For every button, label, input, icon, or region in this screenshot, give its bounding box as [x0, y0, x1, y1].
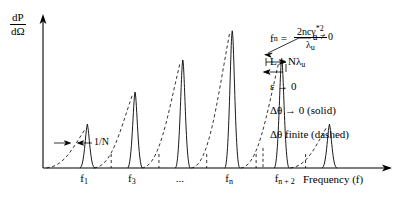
y-axis-label-numerator: dP	[10, 12, 26, 25]
y-axis-label: dP dΩ	[10, 12, 26, 37]
width-callout-1-over-n	[54, 141, 92, 145]
equation-fn-numerator: 2ncγ*2	[294, 24, 327, 38]
x-tick-label: f3	[128, 173, 136, 186]
x-axis-title: Frequency (f)	[303, 174, 363, 185]
harmonic-peak	[80, 124, 95, 168]
equation-fn-denominator: λu	[306, 38, 315, 52]
y-axis	[40, 14, 47, 168]
equation-fn: fn = 2ncγ*2 λu	[270, 26, 405, 50]
equation-epsilon: ε → 0	[270, 74, 405, 98]
x-tick-label: fn + 2	[275, 173, 295, 186]
equation-fn-fraction: 2ncγ*2 λu	[294, 24, 327, 52]
x-tick-label: f1	[80, 173, 88, 186]
equation-fn-equals: =	[281, 32, 287, 44]
equation-fn-subscript: n	[274, 34, 278, 43]
figure-container: dP dΩ Frequency (f) 1/N a ≠ 0 f1f3...fnf…	[0, 0, 405, 198]
legend-solid: Δθ → 0 (solid)	[270, 98, 405, 122]
peak-width-label: 1/N	[94, 137, 109, 147]
equation-list: fn = 2ncγ*2 λu L = Nλu ε → 0 Δθ → 0 (sol…	[270, 26, 405, 146]
broadened-lineshape	[46, 130, 84, 168]
equation-length: L = Nλu	[270, 50, 405, 74]
y-axis-label-denominator: dΩ	[10, 25, 26, 37]
broadened-lineshape	[94, 95, 132, 168]
x-axis	[43, 165, 392, 172]
broadened-lineshape	[191, 34, 229, 168]
harmonic-peak	[225, 31, 240, 168]
x-tick-label: fn	[225, 173, 233, 186]
broadened-lineshape	[142, 63, 180, 168]
legend-dashed: Δθ finite (dashed)	[270, 122, 405, 146]
x-tick-label: ...	[176, 173, 184, 184]
harmonic-peak	[175, 60, 190, 168]
